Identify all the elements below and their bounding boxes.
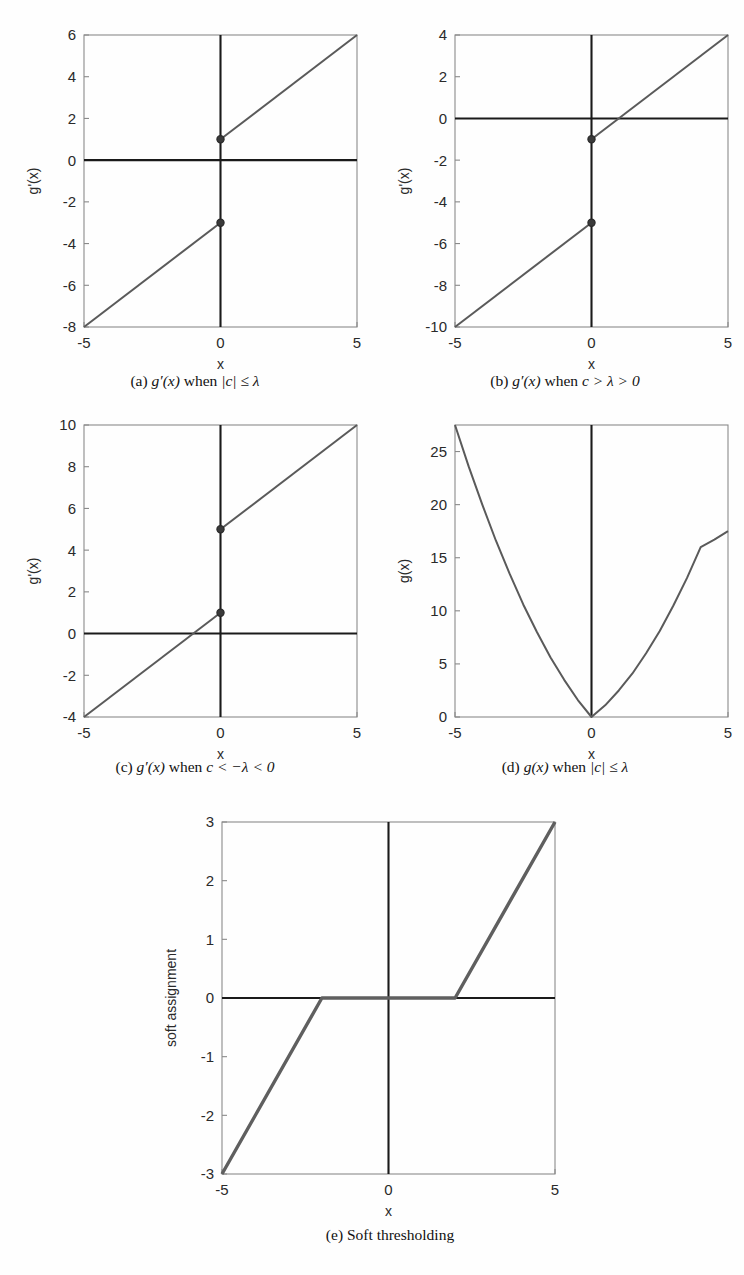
y-tick-label: 0 (439, 708, 447, 725)
caption-prefix: (c) (116, 758, 133, 775)
caption-function: g′(x) (137, 758, 165, 775)
y-axis-label: soft assignment (163, 949, 179, 1047)
y-tick-label: 0 (68, 152, 76, 169)
caption-prefix: (e) (326, 1226, 343, 1243)
subplot-caption-b: (b) g′(x) when c > λ > 0 (385, 372, 744, 390)
x-tick-label: 0 (587, 334, 595, 351)
y-axis-label: g'(x) (25, 168, 41, 195)
figure-container: -8-6-4-20246-505xg'(x)(a) g′(x) when |c|… (0, 0, 744, 1275)
caption-prefix: (a) (130, 372, 147, 389)
caption-when: when (552, 758, 586, 775)
caption-function: g′(x) (152, 372, 180, 389)
x-axis-label: x (588, 356, 595, 372)
discontinuity-marker (217, 219, 224, 226)
y-tick-label: 10 (430, 602, 447, 619)
y-tick-label: -4 (434, 193, 447, 210)
x-tick-label: -5 (448, 724, 461, 741)
y-tick-label: 2 (68, 583, 76, 600)
y-tick-label: 0 (439, 110, 447, 127)
y-tick-label: 5 (439, 655, 447, 672)
subplot-caption-a: (a) g′(x) when |c| ≤ λ (15, 372, 375, 390)
discontinuity-marker (588, 219, 595, 226)
caption-when: when (544, 372, 578, 389)
x-tick-label: 0 (216, 334, 224, 351)
y-tick-label: -10 (425, 318, 447, 335)
y-tick-label: 0 (68, 625, 76, 642)
y-tick-label: 4 (68, 68, 76, 85)
upper-branch (592, 35, 729, 139)
subplot-caption-e: (e) Soft thresholding (190, 1226, 590, 1244)
y-tick-label: -6 (434, 235, 447, 252)
y-tick-label: 2 (439, 68, 447, 85)
y-axis-label: g'(x) (396, 168, 412, 195)
upper-branch (221, 425, 358, 529)
discontinuity-marker (217, 526, 224, 533)
lower-branch (84, 613, 221, 717)
y-tick-label: 0 (206, 989, 214, 1006)
y-tick-label: -4 (63, 708, 76, 725)
caption-condition: |c| ≤ λ (221, 372, 259, 389)
y-axis-label: g'(x) (25, 558, 41, 585)
x-tick-label: 5 (551, 1181, 559, 1198)
y-tick-label: 6 (68, 500, 76, 517)
x-axis-label: x (385, 1203, 392, 1219)
subplot-d: 0510152025-505xg(x) (393, 411, 742, 769)
discontinuity-marker (217, 609, 224, 616)
y-tick-label: 4 (439, 26, 447, 43)
caption-when: when (169, 758, 203, 775)
y-tick-label: -8 (63, 318, 76, 335)
y-tick-label: -2 (201, 1107, 214, 1124)
x-tick-label: -5 (448, 334, 461, 351)
lower-branch (455, 223, 592, 327)
x-tick-label: -5 (77, 334, 90, 351)
x-tick-label: 5 (353, 724, 361, 741)
x-tick-label: 0 (587, 724, 595, 741)
y-tick-label: 8 (68, 458, 76, 475)
x-tick-label: 5 (724, 334, 732, 351)
subplot-c: -4-20246810-505xg'(x) (22, 411, 371, 769)
y-tick-label: 3 (206, 813, 214, 830)
y-tick-label: 2 (206, 872, 214, 889)
y-tick-label: 20 (430, 496, 447, 513)
y-tick-label: 2 (68, 110, 76, 127)
caption-text: Soft thresholding (347, 1226, 454, 1243)
caption-function: g(x) (524, 758, 549, 775)
y-tick-label: -1 (201, 1048, 214, 1065)
y-tick-label: -2 (63, 193, 76, 210)
upper-branch (221, 35, 358, 139)
x-tick-label: 0 (384, 1181, 392, 1198)
caption-condition: c > λ > 0 (582, 372, 640, 389)
y-tick-label: 4 (68, 542, 76, 559)
subplot-caption-c: (c) g′(x) when c < −λ < 0 (15, 758, 375, 776)
y-tick-label: 1 (206, 931, 214, 948)
y-tick-label: -4 (63, 235, 76, 252)
x-tick-label: -5 (215, 1181, 228, 1198)
caption-prefix: (d) (502, 758, 520, 775)
subplot-a: -8-6-4-20246-505xg'(x) (22, 21, 371, 379)
y-tick-label: -3 (201, 1165, 214, 1182)
discontinuity-marker (217, 136, 224, 143)
lower-branch (84, 223, 221, 327)
y-tick-label: -2 (63, 667, 76, 684)
x-tick-label: 5 (724, 724, 732, 741)
y-tick-label: 25 (430, 443, 447, 460)
subplot-caption-d: (d) g(x) when |c| ≤ λ (385, 758, 744, 776)
subplot-b: -10-8-6-4-2024-505xg'(x) (393, 21, 742, 379)
caption-function: g′(x) (512, 372, 540, 389)
x-tick-label: 0 (216, 724, 224, 741)
subplot-e: -3-2-10123-505xsoft assignment (160, 808, 569, 1226)
x-tick-label: 5 (353, 334, 361, 351)
x-axis-label: x (217, 356, 224, 372)
y-tick-label: 10 (59, 416, 76, 433)
y-tick-label: -8 (434, 277, 447, 294)
y-tick-label: -2 (434, 152, 447, 169)
caption-condition: |c| ≤ λ (590, 758, 628, 775)
y-tick-label: 15 (430, 549, 447, 566)
y-tick-label: -6 (63, 277, 76, 294)
caption-prefix: (b) (490, 372, 508, 389)
caption-when: when (184, 372, 218, 389)
caption-condition: c < −λ < 0 (206, 758, 274, 775)
y-axis-label: g(x) (396, 559, 412, 583)
discontinuity-marker (588, 136, 595, 143)
y-tick-label: 6 (68, 26, 76, 43)
